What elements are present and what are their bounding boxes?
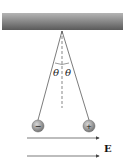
field-label: E — [104, 143, 112, 154]
ceiling — [2, 13, 123, 30]
theta-left: θ — [53, 67, 59, 78]
theta-right: θ — [65, 67, 71, 78]
charge-positive: + — [86, 123, 92, 131]
pendulum-diagram: θ θ − + E — [0, 0, 129, 167]
charge-negative: − — [35, 122, 42, 131]
